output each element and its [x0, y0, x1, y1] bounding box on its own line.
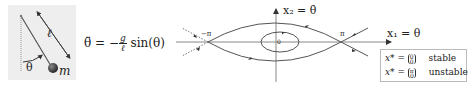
equilibria-legend: x* = 00 stable x* = π0 unstable	[380, 49, 467, 82]
y-axis-label: x₂ = θ̇	[283, 4, 316, 17]
pendulum-rod	[21, 16, 51, 66]
equation-fraction: gℓ	[119, 34, 127, 53]
legend-row-unstable: x* = π0 unstable	[385, 67, 468, 78]
pendulum-equation: θ̈ = −gℓ sin(θ)	[84, 34, 165, 53]
legend-row-stable: x* = 00 stable	[385, 53, 456, 64]
equation-lhs: θ̈ = −	[84, 36, 119, 50]
pi-label: π	[340, 30, 345, 38]
length-label: ℓ	[47, 27, 52, 40]
neg-pi-label: −π	[201, 30, 211, 38]
pendulum-mass	[48, 63, 58, 73]
equation-rhs: sin(θ)	[131, 36, 165, 50]
origin-label: 0	[277, 38, 281, 45]
x-axis-label: x₁ = θ	[387, 27, 420, 40]
angle-label: θ	[26, 61, 33, 74]
mass-label: m	[59, 64, 70, 78]
